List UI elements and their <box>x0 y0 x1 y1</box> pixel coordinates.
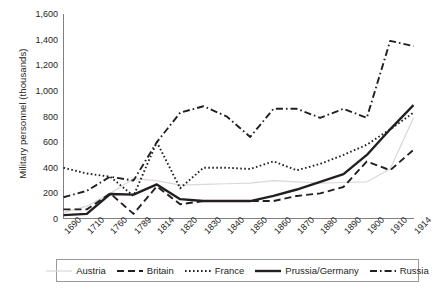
x-axis-tick-labels: 1690171017601789181418201830184018501860… <box>63 223 414 263</box>
legend-swatch-icon <box>370 267 396 275</box>
legend-swatch-icon <box>117 267 143 275</box>
legend-item-label: Prussia/Germany <box>285 265 358 276</box>
legend-item-russia[interactable]: Russia <box>370 265 429 276</box>
legend-item-britain[interactable]: Britain <box>117 265 174 276</box>
legend-item-label: Austria <box>76 265 106 276</box>
legend-swatch-icon <box>185 267 211 275</box>
legend-item-label: Russia <box>400 265 429 276</box>
y-axis-tick-label: 1,000 <box>16 86 58 96</box>
y-axis-tick-label: 1,600 <box>16 9 58 19</box>
y-axis-tick-label: 400 <box>16 163 58 173</box>
series-line-russia <box>64 41 414 197</box>
y-axis-tick-label: 1,200 <box>16 60 58 70</box>
y-axis-tick-label: 0 <box>16 214 58 224</box>
chart-legend: AustriaBritainFrancePrussia/GermanyRussi… <box>56 259 419 282</box>
y-axis-tick-label: 200 <box>16 188 58 198</box>
y-axis-tick-label: 800 <box>16 112 58 122</box>
legend-item-prussia-germany[interactable]: Prussia/Germany <box>255 265 358 276</box>
legend-swatch-icon <box>46 267 72 275</box>
y-axis-tick-label: 1,400 <box>16 35 58 45</box>
legend-swatch-icon <box>255 267 281 275</box>
x-axis-tick-label: 1914 <box>412 215 433 236</box>
plot-svg <box>63 14 414 219</box>
legend-item-label: Britain <box>147 265 174 276</box>
plot-area <box>63 14 414 219</box>
legend-item-label: France <box>215 265 245 276</box>
y-axis-tick-label: 600 <box>16 137 58 147</box>
legend-item-austria[interactable]: Austria <box>46 265 106 276</box>
y-axis-tick-labels: 02004006008001,0001,2001,4001,600 <box>16 0 58 298</box>
legend-item-france[interactable]: France <box>185 265 245 276</box>
